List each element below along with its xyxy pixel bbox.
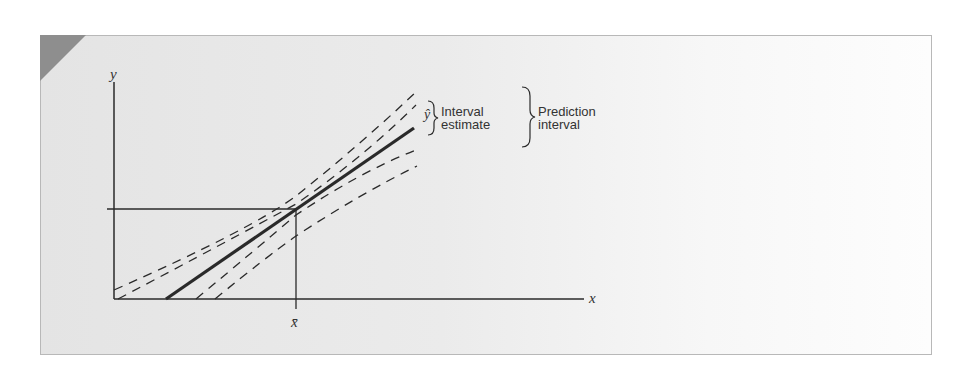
interval-estimate-line2: estimate — [441, 118, 490, 131]
prediction-band-upper — [114, 91, 417, 290]
x-mean-label: x̄ — [291, 316, 298, 329]
y-hat-label: ŷ — [424, 108, 430, 121]
prediction-interval-line2: interval — [538, 118, 596, 131]
regression-line — [166, 128, 414, 299]
prediction-interval-brace — [522, 87, 535, 147]
regression-diagram — [0, 0, 962, 387]
confidence-band-upper — [118, 105, 416, 299]
interval-estimate-label: Interval estimate — [441, 105, 490, 131]
x-axis-label: x — [589, 292, 596, 305]
y-axis-label: y — [110, 68, 117, 81]
prediction-interval-label: Prediction interval — [538, 105, 596, 131]
confidence-band-lower — [196, 150, 416, 299]
prediction-band-lower — [215, 166, 417, 299]
